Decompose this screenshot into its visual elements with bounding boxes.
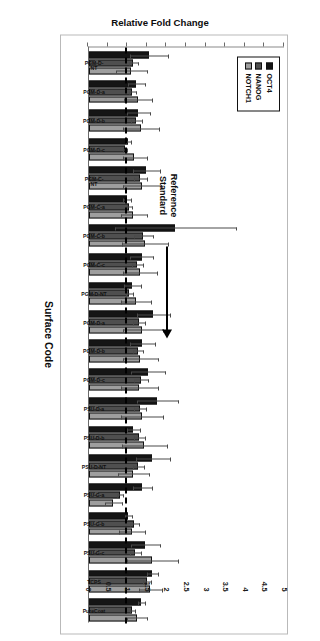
error-bar bbox=[127, 560, 179, 561]
bar bbox=[89, 96, 138, 103]
error-bar bbox=[130, 62, 139, 63]
error-bar bbox=[138, 602, 146, 603]
x-tick-label: TCPS bbox=[71, 579, 117, 584]
error-bar bbox=[106, 502, 123, 503]
bar bbox=[89, 384, 139, 391]
bar-wrapper bbox=[89, 483, 268, 490]
bar bbox=[89, 138, 128, 145]
error-bar bbox=[123, 358, 159, 359]
bar-wrapper bbox=[89, 124, 268, 131]
bar-wrapper bbox=[89, 138, 268, 145]
error-bar bbox=[126, 293, 134, 294]
error-bar bbox=[134, 437, 147, 438]
error-bar bbox=[134, 178, 148, 179]
bar-wrapper bbox=[89, 512, 268, 519]
x-tick-label: PGM-D-NT bbox=[71, 291, 117, 296]
legend-label-nanog: NANOG bbox=[254, 73, 263, 100]
error-bar bbox=[128, 83, 145, 84]
bar bbox=[89, 499, 113, 506]
x-tick-label: PGM-C-c bbox=[71, 262, 117, 267]
bar-wrapper bbox=[89, 454, 268, 461]
x-tick-label: PGM-D-a bbox=[71, 320, 117, 325]
y-axis-label: Relative Fold Change bbox=[60, 17, 260, 28]
y-tick-label: 4 bbox=[240, 587, 249, 591]
y-tick-label: 1 bbox=[123, 587, 132, 591]
error-bar bbox=[132, 264, 144, 265]
error-bar bbox=[117, 70, 148, 71]
x-axis-label: Surface Code bbox=[43, 46, 54, 622]
bar bbox=[89, 166, 146, 173]
bar-wrapper bbox=[89, 528, 268, 535]
x-tick-label: PGM-C-b bbox=[71, 233, 117, 238]
bar bbox=[89, 195, 127, 202]
bar bbox=[89, 355, 140, 362]
bar-wrapper bbox=[89, 598, 268, 605]
x-tick-label: PSU-G-a bbox=[71, 492, 117, 497]
error-bar bbox=[128, 112, 152, 113]
bar bbox=[89, 268, 140, 275]
bar-wrapper bbox=[89, 614, 268, 621]
bar bbox=[89, 614, 137, 621]
bar-groups bbox=[89, 48, 268, 622]
error-bar bbox=[134, 466, 146, 467]
error-bar bbox=[133, 350, 144, 351]
legend: OCT4 NANOG NOTCH1 bbox=[237, 56, 268, 111]
error-bar bbox=[126, 206, 133, 207]
y-tick-label: 3 bbox=[201, 587, 210, 591]
bar bbox=[89, 412, 142, 419]
error-bar bbox=[121, 416, 163, 417]
y-tick-mark bbox=[87, 42, 88, 46]
bar bbox=[89, 397, 157, 404]
bar-wrapper bbox=[89, 253, 268, 260]
bar bbox=[89, 240, 145, 247]
y-tick-mark bbox=[165, 42, 166, 46]
error-bar bbox=[134, 408, 147, 409]
y-tick-label: 1.5 bbox=[142, 581, 151, 591]
y-tick-label: 2.5 bbox=[182, 581, 191, 591]
error-bar bbox=[117, 494, 123, 495]
bar-wrapper bbox=[89, 470, 268, 477]
error-bar bbox=[132, 120, 143, 121]
bar bbox=[89, 541, 145, 548]
bar-wrapper bbox=[89, 268, 268, 275]
bar bbox=[89, 441, 144, 448]
error-bar bbox=[131, 523, 140, 524]
error-bar bbox=[134, 235, 154, 236]
bar-wrapper bbox=[89, 240, 268, 247]
error-bar bbox=[136, 458, 170, 459]
error-bar bbox=[118, 473, 149, 474]
error-bar bbox=[130, 55, 169, 56]
bar-wrapper bbox=[89, 297, 268, 304]
bar bbox=[89, 124, 141, 131]
error-bar bbox=[128, 617, 148, 618]
error-bar bbox=[134, 322, 147, 323]
bar-wrapper bbox=[89, 326, 268, 333]
x-tick-label: PGM-D-c bbox=[71, 147, 117, 152]
bar bbox=[89, 598, 141, 605]
y-tick-mark bbox=[185, 42, 186, 46]
bar-wrapper bbox=[89, 282, 268, 289]
bar bbox=[89, 51, 149, 58]
y-tick-label: 4.5 bbox=[260, 581, 268, 591]
error-bar bbox=[131, 343, 156, 344]
y-tick-mark bbox=[146, 42, 147, 46]
y-tick-mark bbox=[107, 42, 108, 46]
x-tick-label: PGM-C-a bbox=[71, 204, 117, 209]
error-bar bbox=[124, 272, 158, 273]
bar-wrapper bbox=[89, 339, 268, 346]
bar-wrapper bbox=[89, 384, 268, 391]
y-tick-mark bbox=[263, 42, 264, 46]
x-tick-label: PGM-D-c bbox=[71, 377, 117, 382]
bar bbox=[89, 109, 138, 116]
x-tick-label: PSU-G-c bbox=[71, 550, 117, 555]
y-tick-label: 2 bbox=[162, 587, 171, 591]
error-bar bbox=[132, 371, 166, 372]
bar-wrapper bbox=[89, 541, 268, 548]
bar bbox=[89, 454, 153, 461]
legend-swatch-icon-notch1 bbox=[245, 62, 252, 69]
bar bbox=[89, 310, 153, 317]
x-tick-label: PSU-D-NT bbox=[71, 464, 117, 469]
reference-line bbox=[125, 47, 127, 623]
error-bar bbox=[133, 487, 153, 488]
x-tick-label: PGM-C- NT bbox=[71, 176, 117, 187]
